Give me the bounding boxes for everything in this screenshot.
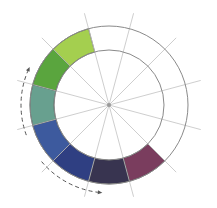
color-wheel-diagram <box>0 0 217 208</box>
bottom-arrow-head-icon <box>98 190 103 194</box>
spoke-line <box>109 38 176 105</box>
center-dot <box>107 103 111 107</box>
segment-dark-violet <box>89 158 130 184</box>
left-arrow-path <box>21 68 29 135</box>
segment-teal <box>30 85 56 126</box>
